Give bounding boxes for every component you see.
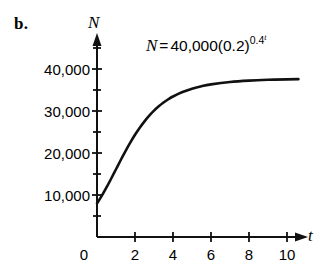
y-axis-tick-label: 20,000 (20, 145, 90, 162)
y-axis-tick-label: 30,000 (20, 103, 90, 120)
figure-panel-b: b. N t N=40,000(0.2)0.4t 10,00020,00030,… (0, 0, 324, 272)
x-axis-tick-label: 4 (169, 246, 177, 263)
x-axis-tick-label: 0 (80, 246, 88, 263)
plot-area (0, 0, 324, 272)
y-axis-arrowhead (93, 33, 102, 46)
y-axis-tick-label: 10,000 (20, 187, 90, 204)
x-axis-tick-label: 10 (279, 246, 296, 263)
x-axis-arrowhead (295, 233, 308, 242)
series-curve (97, 79, 298, 203)
x-axis-tick-label: 8 (245, 246, 253, 263)
x-axis-tick-label: 6 (207, 246, 215, 263)
axes (93, 33, 309, 242)
x-axis-tick-label: 2 (131, 246, 139, 263)
data-series (97, 79, 298, 203)
y-axis-tick-label: 40,000 (20, 61, 90, 78)
